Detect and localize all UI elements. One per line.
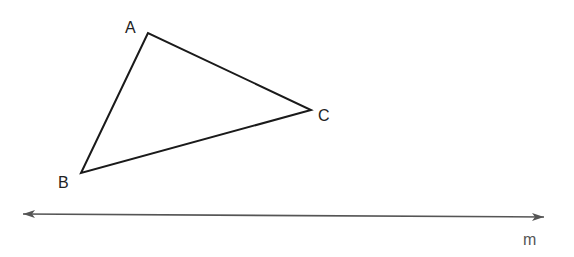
geometry-diagram: A B C m [0,0,574,257]
diagram-svg: A B C m [0,0,574,257]
vertex-label-b: B [58,174,69,191]
vertex-label-a: A [125,19,136,36]
vertex-label-c: C [318,107,330,124]
triangle-abc [81,33,311,173]
line-m [23,214,544,217]
line-label-m: m [523,231,536,248]
